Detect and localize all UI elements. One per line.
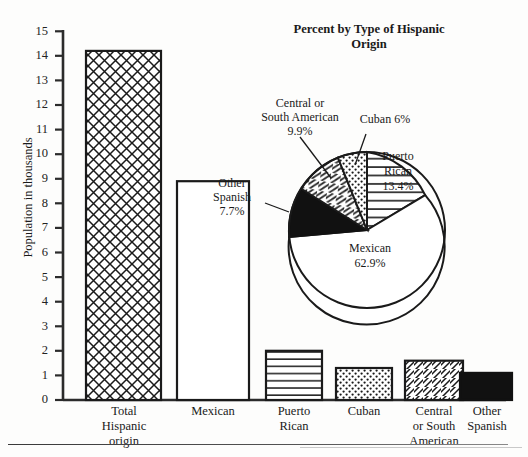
category-label-other-spanish: Other Spanish: [449, 404, 525, 434]
page-divider-rule-secondary: [300, 447, 522, 448]
pie-label-mexican: Mexican 62.9%: [328, 241, 412, 271]
y-axis-label: Population in thousands: [21, 108, 36, 288]
cat-line: Spanish: [449, 419, 525, 434]
y-tick-0: 0: [28, 392, 48, 407]
bar-puerto-rican: [266, 351, 322, 400]
pie-label-line: Spanish: [196, 190, 268, 204]
bar-cuban: [336, 368, 392, 400]
cat-line: origin: [83, 434, 165, 449]
pie-title-line: Percent by Type of Hispanic: [258, 22, 480, 37]
bar-central-or-south-american: [405, 361, 463, 400]
pie-label-line: Other: [196, 176, 268, 190]
cat-line: Total: [83, 404, 165, 419]
pie-chart-title: Percent by Type of Hispanic Origin: [258, 22, 480, 52]
bar-other-spanish: [460, 373, 512, 400]
pie-label-other-spanish: Other Spanish 7.7%: [196, 176, 268, 218]
pie-label-puerto-rican: Puerto Rican 13.4%: [362, 149, 434, 194]
y-tick-3: 3: [28, 319, 48, 334]
pie-label-line: Central or: [222, 96, 378, 110]
y-tick-2: 2: [28, 343, 48, 358]
y-tick-13: 13: [28, 73, 48, 88]
y-tick-15: 15: [28, 24, 48, 39]
pie-label-cuban: Cuban 6%: [330, 112, 440, 126]
y-tick-14: 14: [28, 48, 48, 63]
cat-line: Rican: [253, 419, 335, 434]
cat-line: Hispanic: [83, 419, 165, 434]
bar-total-hispanic-origin: [86, 51, 161, 400]
category-label-total-hispanic-origin: Total Hispanic origin: [83, 404, 165, 448]
pie-label-line: 62.9%: [328, 256, 412, 271]
y-tick-4: 4: [28, 294, 48, 309]
y-tick-1: 1: [28, 368, 48, 383]
pie-label-line: Rican: [362, 164, 434, 179]
pie-title-line: Origin: [258, 37, 480, 52]
pie-label-line: 13.4%: [362, 179, 434, 194]
pie-label-line: 7.7%: [196, 204, 268, 218]
cat-line: Mexican: [172, 404, 254, 419]
pie-label-line: Cuban 6%: [330, 112, 440, 126]
chart-graphics: [0, 0, 528, 457]
pie-label-line: 9.9%: [222, 124, 378, 138]
cat-line: Other: [449, 404, 525, 419]
pie-label-line: Puerto: [362, 149, 434, 164]
category-label-mexican: Mexican: [172, 404, 254, 419]
figure-canvas: 15 14 13 12 11 10 9 8 7 6 5 4 3 2 1 0 Po…: [0, 0, 528, 457]
pie-label-line: Mexican: [328, 241, 412, 256]
leader-other-spanish: [265, 203, 289, 212]
page-divider-rule: [8, 444, 508, 445]
